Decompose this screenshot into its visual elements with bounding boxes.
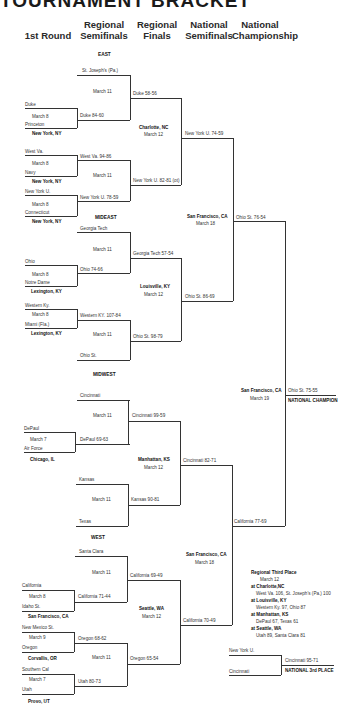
line: [25, 265, 77, 266]
line: [77, 195, 78, 216]
line: [77, 265, 78, 286]
midwest-rf-date: March 12: [144, 465, 163, 471]
line: [25, 155, 77, 156]
east-rs1-result: Duke 58-56: [133, 91, 157, 97]
east-rf-site: Charlotte, NC: [139, 125, 168, 131]
line: [74, 632, 75, 652]
line: [74, 686, 127, 687]
mideast-bye-team-2: Ohio St.: [80, 353, 97, 359]
line: [127, 664, 180, 665]
third-regional-date: March 12: [260, 577, 279, 583]
line: [127, 580, 180, 581]
line: [77, 160, 130, 161]
col-label-line: Finals: [132, 30, 182, 41]
third-site-4: at Seattle, WA: [251, 626, 281, 632]
mideast-rs1-date: March 11: [93, 247, 112, 253]
ns2-result: California 77-69: [234, 519, 266, 525]
line: [130, 232, 131, 273]
line: [128, 505, 180, 506]
mideast-g1-date: March 8: [32, 272, 49, 278]
line: [285, 378, 286, 526]
west-g1-bottom: Idaho St.: [22, 604, 40, 610]
midwest-g1-date: March 7: [30, 437, 47, 443]
west-rs2-date: March 11: [92, 655, 111, 661]
line: [130, 160, 131, 201]
east-rs2-date: March 11: [93, 173, 112, 179]
west-rs1-date: March 11: [92, 570, 111, 576]
line: [130, 185, 181, 186]
third-regional-heading: Regional Third Place: [251, 570, 296, 576]
line: [77, 273, 130, 274]
west-rf-result: California 70-49: [183, 618, 215, 624]
line: [77, 360, 130, 361]
line: [130, 98, 181, 99]
col-label-line: Semifinals: [184, 30, 234, 41]
west-rf-site: Seattle, WA: [139, 606, 164, 612]
line: [25, 328, 77, 329]
west-g2-top: New Mexico St.: [22, 625, 54, 631]
line: [25, 176, 77, 177]
west-g1-top: California: [22, 583, 41, 589]
final-site: San Francisco, CA: [241, 388, 282, 394]
line: [24, 452, 75, 453]
west-g3-site: Provo, UT: [28, 699, 50, 705]
line: [22, 694, 74, 695]
line: [233, 221, 285, 222]
col-regional-semifinals: Regional Semifinals: [76, 19, 132, 41]
region-midwest: MIDWEST: [93, 372, 116, 377]
line: [75, 432, 76, 452]
line: [281, 665, 334, 666]
line: [229, 675, 281, 676]
west-bye-team: Santa Clara: [79, 549, 103, 555]
line: [130, 320, 131, 360]
col-first-round: 1st Round: [18, 30, 78, 41]
east-g1-result: Duke 84-60: [80, 113, 104, 119]
mideast-g2-date: March 8: [32, 312, 49, 318]
west-g1-site: San Francisco, CA: [28, 614, 69, 620]
midwest-bye-team: Cincinnati: [80, 393, 100, 399]
third-site-2: at Louisville, KY: [251, 598, 286, 604]
col-national-championship: National Championship: [232, 19, 288, 41]
ns2-date: March 18: [195, 560, 214, 566]
nat3-result: Cincinnati 95-71: [285, 658, 318, 664]
final-date: March 19: [250, 396, 269, 402]
mideast-rs2-result: Ohio St. 98-79: [133, 334, 163, 340]
east-g3-date: March 8: [32, 202, 49, 208]
east-rs1-date: March 11: [93, 89, 112, 95]
ns2-site: San Francisco, CA: [186, 552, 227, 558]
midwest-g1-site: Chicago, IL: [30, 457, 55, 463]
line: [74, 674, 75, 694]
line: [77, 201, 130, 202]
west-g2-date: March 9: [29, 635, 46, 641]
line: [22, 632, 74, 633]
line: [229, 655, 281, 656]
midwest-rs2-date: March 11: [92, 497, 111, 503]
line: [77, 108, 78, 128]
line: [25, 108, 77, 109]
line: [181, 98, 182, 185]
third-site-1: at Charlotte,NC: [251, 584, 284, 590]
line: [232, 465, 233, 625]
west-g2-result: Oregon 68-62: [78, 636, 106, 642]
east-bye-team: St. Joseph's (Pa.): [82, 68, 118, 74]
line: [180, 580, 181, 664]
region-east: EAST: [98, 52, 111, 57]
third-result-1: West Va. 106, St. Joseph's (Pa.) 100: [256, 591, 331, 597]
line: [130, 258, 181, 259]
col-national-semifinals: National Semifinals: [184, 19, 234, 41]
line: [22, 590, 74, 591]
midwest-rf-site: Manhattan, KS: [138, 457, 170, 463]
line: [77, 75, 130, 76]
line: [285, 221, 286, 378]
west-g3-date: March 7: [29, 677, 46, 683]
line: [181, 258, 182, 341]
ns1-site: San Francisco, CA: [187, 214, 228, 220]
west-g3-bottom: Utah: [22, 687, 32, 693]
line: [76, 526, 128, 527]
line: [22, 611, 74, 612]
line: [77, 120, 130, 121]
final-result: Ohio St. 75-55: [288, 388, 318, 394]
line: [77, 155, 78, 176]
line: [128, 421, 180, 422]
line: [180, 625, 232, 626]
